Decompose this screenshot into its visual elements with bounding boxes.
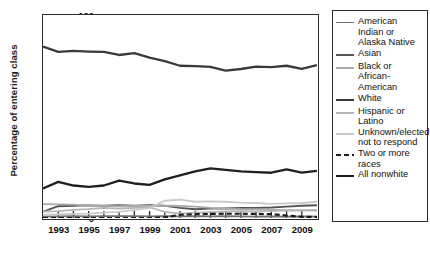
y-axis-title: Percentage of entering class — [8, 26, 19, 196]
legend-item-label: Black or African-American — [358, 61, 424, 93]
legend-swatch-icon — [336, 171, 354, 182]
plot-area — [42, 14, 319, 220]
legend-item[interactable]: Hispanic or Latino — [336, 106, 424, 127]
legend-item[interactable]: Unknown/elected not to respond — [336, 127, 424, 148]
legend-item[interactable]: American Indian or Alaska Native — [336, 16, 424, 48]
legend-item-label: Two or more races — [358, 148, 424, 169]
legend-swatch-icon — [336, 108, 354, 119]
legend-item-label: Asian — [358, 48, 381, 59]
legend-item[interactable]: Two or more races — [336, 148, 424, 169]
legend-swatch-icon — [336, 18, 354, 29]
legend-item[interactable]: All nonwhite — [336, 169, 424, 182]
legend-swatch-icon — [336, 63, 354, 74]
legend-item-label: Hispanic or Latino — [358, 106, 424, 127]
series-lines — [43, 15, 317, 218]
legend-item[interactable]: Asian — [336, 48, 424, 61]
x-axis-tick-label: 2009 — [282, 224, 322, 235]
y-axis-title-container: Percentage of entering class — [0, 0, 16, 230]
series-line — [43, 168, 317, 188]
series-line — [43, 216, 317, 217]
legend-item-label: White — [358, 93, 382, 104]
legend-swatch-icon — [336, 50, 354, 61]
chart-legend: American Indian or Alaska NativeAsianBla… — [332, 10, 428, 222]
legend-swatch-icon — [336, 150, 354, 161]
legend-swatch-icon — [336, 95, 354, 106]
legend-item-label: American Indian or Alaska Native — [358, 16, 424, 48]
legend-swatch-icon — [336, 129, 354, 140]
legend-item[interactable]: Black or African-American — [336, 61, 424, 93]
series-line — [43, 46, 317, 70]
legend-item[interactable]: White — [336, 93, 424, 106]
chart-figure: Percentage of entering class 01020304050… — [0, 0, 430, 258]
legend-item-label: Unknown/elected not to respond — [358, 127, 429, 148]
legend-item-label: All nonwhite — [358, 169, 408, 180]
